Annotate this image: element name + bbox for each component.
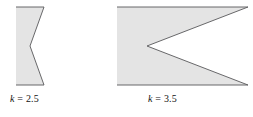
caption-k-2-5: k = 2.5 [10,93,39,105]
wedge-shape-k-3-5 [117,7,248,85]
caption-value-left: 2.5 [26,93,39,104]
figure-container: k = 2.5 k = 3.5 [0,0,253,117]
caption-equals-right: = [153,93,164,104]
caption-equals-left: = [15,93,26,104]
caption-k-3-5: k = 3.5 [148,93,177,105]
caption-value-right: 3.5 [164,93,177,104]
